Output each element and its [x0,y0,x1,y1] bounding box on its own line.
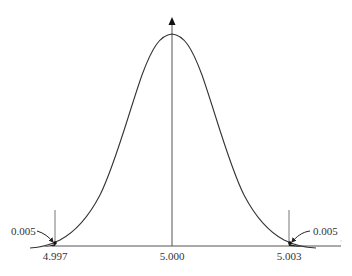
lower-limit-label: 4.997 [43,250,68,262]
left-annotation-arrow [37,231,53,242]
normal-curve [30,34,316,248]
lower-limit-point [53,241,57,245]
mean-label: 5.000 [160,250,185,262]
up-arrow-icon [169,17,176,25]
upper-limit-point [288,241,292,245]
left-tail-area-label: 0.005 [11,225,36,237]
right-annotation-arrow [292,231,310,242]
upper-limit-label: 5.003 [277,250,302,262]
right-tail-area-label: 0.005 [313,225,338,237]
decorative-speck [340,240,342,242]
normal-distribution-figure: 0.005 0.005 4.997 5.000 5.003 [0,0,352,276]
